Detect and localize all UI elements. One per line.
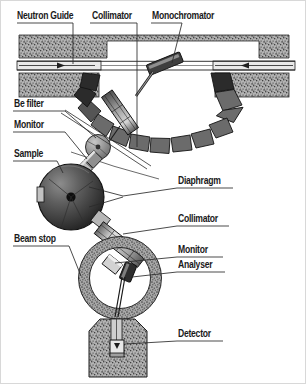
reactor-shielding-upper (19, 35, 289, 58)
label-monitor-right: Monitor (178, 244, 208, 255)
label-analyser: Analyser (178, 259, 212, 270)
label-monitor-left: Monitor (14, 119, 44, 130)
diagram-canvas (1, 1, 306, 384)
label-neutron-guide: Neutron Guide (17, 10, 73, 21)
neutron-guide-right (213, 61, 295, 70)
label-be-filter: Be filter (14, 98, 44, 109)
label-beam-stop: Beam stop (14, 233, 56, 244)
label-sample: Sample (14, 148, 43, 159)
spectrometer-diagram: Neutron Guide Collimator Monochromator B… (0, 0, 306, 384)
label-monochromator: Monochromator (152, 10, 214, 21)
neutron-guide-left (17, 61, 101, 70)
label-detector: Detector (178, 328, 211, 339)
label-diaphragm: Diaphragm (178, 175, 221, 186)
detector-housing (89, 319, 147, 377)
label-collimator-right: Collimator (178, 213, 218, 224)
label-collimator-top: Collimator (92, 10, 132, 21)
monitor-right-block (102, 254, 123, 274)
